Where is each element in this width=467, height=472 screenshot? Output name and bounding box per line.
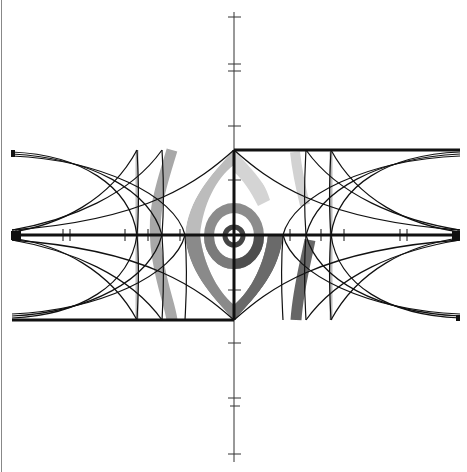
geometric-diagram (0, 0, 467, 472)
right-lower-band (296, 240, 310, 320)
diagram-canvas (0, 0, 467, 472)
right-upper-band (295, 152, 305, 205)
